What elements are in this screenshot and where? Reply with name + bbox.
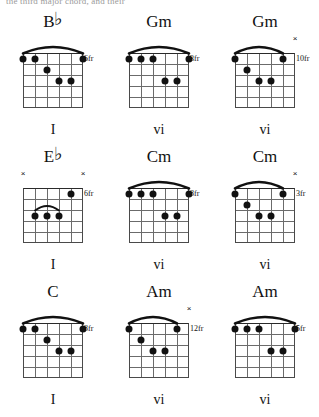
chord-name: Am [252,282,278,303]
finger-dot [174,325,181,332]
fret-line [24,75,82,76]
fretboard-diagram: ××6fr [16,170,90,250]
chord-diagram-gm-10fr[interactable]: Gm×10frvi [212,12,318,147]
fret-line [130,232,188,233]
roman-numeral: vi [154,122,165,138]
fret-line [24,367,82,368]
chord-row: B♭6frIGm3frviGm×10frvi [0,12,319,147]
finger-dot [138,336,145,343]
finger-dot [232,190,239,197]
partial-barre-arc [16,170,90,250]
fret-line [130,334,188,335]
chord-name: Am [146,282,172,303]
fret-line [236,221,294,222]
finger-dot [44,66,51,73]
roman-numeral: vi [260,257,271,273]
finger-dot [150,347,157,354]
barre-arc [122,170,196,192]
finger-dot [244,325,251,332]
fret-grid [235,53,295,108]
chord-diagram-b-6fr[interactable]: B♭6frI [0,12,106,147]
fret-line [236,210,294,211]
finger-dot [32,212,39,219]
fret-line [24,356,82,357]
chord-diagram-e-6fr[interactable]: E♭××6frI [0,147,106,282]
finger-dot [280,55,287,62]
flat-symbol: ♭ [54,144,62,164]
fret-line [236,75,294,76]
fret-line [236,334,294,335]
string-line [247,189,248,242]
finger-dot [256,325,263,332]
finger-dot [162,212,169,219]
fret-position-label: 8fr [190,189,199,198]
fretboard-diagram: 3fr [122,35,196,115]
fret-line [130,345,188,346]
barre-arc [228,305,302,327]
finger-dot [232,55,239,62]
roman-numeral: I [51,122,56,138]
chord-diagram-gm-3fr[interactable]: Gm3frvi [106,12,212,147]
roman-numeral: I [51,257,56,273]
roman-numeral: vi [260,122,271,138]
chord-row: C8frIAm×12frviAm5frvi [0,282,319,417]
chord-diagram-cm-8fr[interactable]: Cm8frvi [106,147,212,282]
fret-line [130,86,188,87]
fret-position-label: 3fr [190,54,199,63]
finger-dot [268,212,275,219]
finger-dot [56,347,63,354]
fretboard-diagram: 8fr [122,170,196,250]
finger-dot [150,190,157,197]
fret-position-label: 6fr [84,54,93,63]
fret-line [130,367,188,368]
fret-line [24,334,82,335]
barre-arc [228,170,302,192]
chord-diagram-am-5fr[interactable]: Am5frvi [212,282,318,417]
finger-dot [138,55,145,62]
finger-dot [32,55,39,62]
fret-position-label: 10fr [296,54,309,63]
chord-diagram-cm-3fr[interactable]: Cm×3frvi [212,147,318,282]
fret-line [130,221,188,222]
fret-line [236,86,294,87]
fretboard-diagram: ×3fr [228,170,302,250]
fret-line [130,356,188,357]
finger-dot [150,55,157,62]
chord-diagram-c-8fr[interactable]: C8frI [0,282,106,417]
finger-dot [44,336,51,343]
finger-dot [244,201,251,208]
chord-row: E♭××6frICm8frviCm×3frvi [0,147,319,282]
finger-dot [268,77,275,84]
barre-arc [228,35,302,57]
barre-arc [122,305,196,327]
chord-name: Cm [147,147,172,168]
fret-position-label: 6fr [84,189,93,198]
chord-name: Gm [146,12,172,33]
string-line [141,324,142,377]
fret-line [130,199,188,200]
finger-dot [126,190,133,197]
chord-diagram-am-12fr[interactable]: Am×12frvi [106,282,212,417]
string-line [47,54,48,107]
finger-dot [174,212,181,219]
finger-dot [20,325,27,332]
fretboard-diagram: 6fr [16,35,90,115]
finger-dot [256,77,263,84]
fret-line [236,97,294,98]
finger-dot [244,66,251,73]
flat-symbol: ♭ [54,9,62,29]
finger-dot [20,55,27,62]
fret-position-label: 8fr [84,324,93,333]
fret-line [130,75,188,76]
finger-dot [174,77,181,84]
finger-dot [126,55,133,62]
fret-line [236,199,294,200]
finger-dot [56,77,63,84]
chord-name: C [47,282,58,303]
finger-dot [138,190,145,197]
finger-dot [68,190,75,197]
barre-arc [16,35,90,57]
finger-dot [268,347,275,354]
fret-position-label: 12fr [190,324,203,333]
finger-dot [126,325,133,332]
